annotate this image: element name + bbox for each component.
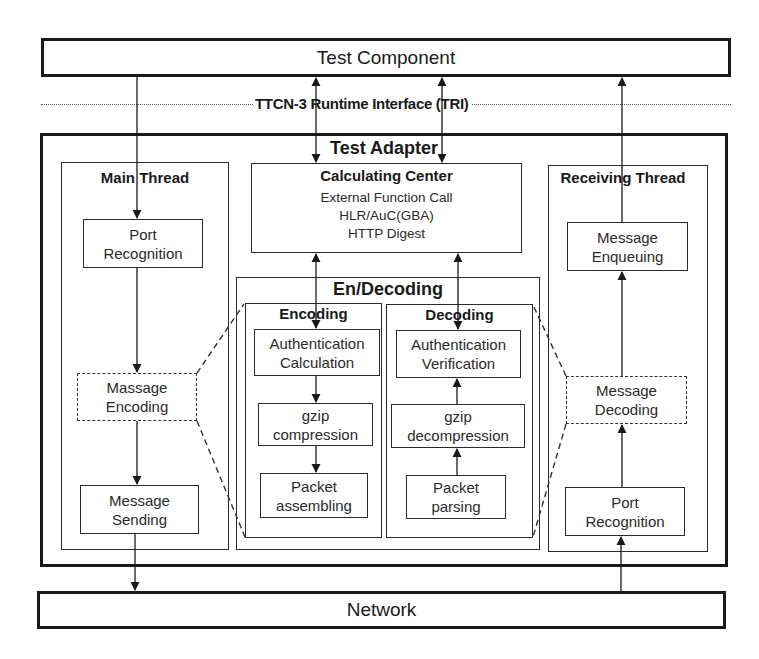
step-text: Encoding: [106, 397, 169, 416]
step-text: Decoding: [595, 400, 658, 419]
step-text: Message: [109, 491, 170, 510]
calculating-center-label: Calculating Center: [252, 167, 521, 184]
decoding-label: Decoding: [387, 306, 532, 323]
receiving-thread-label: Receiving Thread: [539, 169, 707, 186]
calc-line: HLR/AuC(GBA): [252, 207, 521, 225]
calculating-center-lines: External Function Call HLR/AuC(GBA) HTTP…: [252, 189, 521, 243]
step-text: gzip: [444, 407, 472, 426]
message-sending-box: Message Sending: [80, 485, 199, 534]
step-text: gzip: [302, 406, 330, 425]
step-text: decompression: [407, 426, 509, 445]
step-text: Port: [611, 493, 639, 512]
step-text: Sending: [112, 510, 167, 529]
test-component-label: Test Component: [317, 47, 455, 69]
step-text: Recognition: [585, 512, 664, 531]
step-text: Authentication: [411, 335, 506, 354]
step-text: Enqueuing: [592, 247, 664, 266]
authentication-calculation-box: Authentication Calculation: [254, 329, 380, 376]
port-recognition-send-box: Port Recognition: [83, 219, 203, 268]
calc-line: HTTP Digest: [252, 225, 521, 243]
step-text: parsing: [431, 497, 480, 516]
step-text: Authentication: [269, 334, 364, 353]
calc-line: External Function Call: [252, 189, 521, 207]
encoding-label: Encoding: [246, 305, 381, 322]
step-text: Message: [596, 381, 657, 400]
step-text: Verification: [422, 354, 495, 373]
network-label: Network: [347, 599, 417, 621]
packet-parsing-box: Packet parsing: [406, 475, 506, 519]
step-text: Recognition: [103, 244, 182, 263]
authentication-verification-box: Authentication Verification: [396, 330, 521, 378]
message-encoding-box: Massage Encoding: [77, 373, 197, 421]
step-text: Massage: [107, 378, 168, 397]
packet-assembling-box: Packet assembling: [260, 473, 368, 518]
step-text: Message: [597, 228, 658, 247]
port-recognition-receive-box: Port Recognition: [565, 487, 685, 536]
step-text: assembling: [276, 496, 352, 515]
test-component-box: Test Component: [41, 38, 731, 77]
tri-label: TTCN-3 Runtime Interface (TRI): [253, 95, 471, 112]
message-enqueuing-box: Message Enqueuing: [567, 222, 688, 271]
calculating-center-box: Calculating Center External Function Cal…: [251, 163, 522, 253]
en-decoding-label: En/Decoding: [237, 279, 539, 300]
step-text: compression: [273, 425, 358, 444]
step-text: Packet: [291, 477, 337, 496]
step-text: Port: [129, 225, 157, 244]
main-thread-label: Main Thread: [62, 169, 228, 186]
gzip-decompression-box: gzip decompression: [391, 404, 525, 448]
step-text: Packet: [433, 478, 479, 497]
message-decoding-box: Message Decoding: [566, 376, 687, 424]
test-adapter-label: Test Adapter: [43, 138, 725, 159]
gzip-compression-box: gzip compression: [258, 403, 373, 446]
step-text: Calculation: [280, 353, 354, 372]
network-box: Network: [37, 591, 726, 629]
